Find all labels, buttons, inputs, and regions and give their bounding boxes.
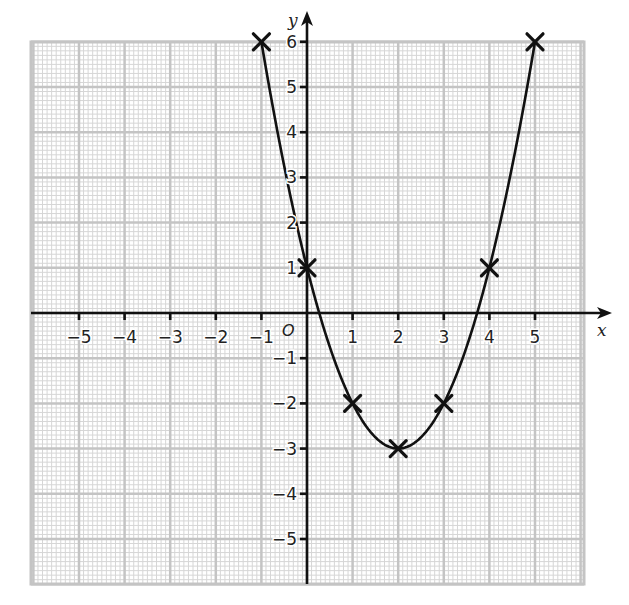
x-tick-label: 2 — [393, 327, 404, 347]
x-tick-label: −2 — [203, 327, 228, 347]
x-tick-label: −3 — [158, 327, 183, 347]
x-tick-label: −1 — [249, 327, 274, 347]
y-tick-label: 1 — [286, 258, 297, 278]
x-tick-label: 1 — [347, 327, 358, 347]
y-tick-label: 6 — [286, 32, 297, 52]
x-tick-label: 5 — [530, 327, 541, 347]
origin-label: O — [282, 321, 295, 340]
x-axis-label: x — [597, 320, 607, 340]
x-tick-label: −4 — [112, 327, 137, 347]
y-tick-label: 3 — [286, 167, 297, 187]
graph-plot: −5−4−3−2−112345654321−1−2−3−4−5 x y O — [0, 0, 629, 605]
x-tick-label: 3 — [438, 327, 449, 347]
y-axis-label: y — [287, 10, 298, 30]
y-tick-label: −5 — [272, 529, 297, 549]
y-tick-label: 4 — [286, 122, 297, 142]
y-tick-label: 5 — [286, 77, 297, 97]
x-tick-label: −5 — [66, 327, 91, 347]
y-tick-label: −4 — [272, 484, 297, 504]
y-tick-label: −1 — [272, 348, 297, 368]
y-tick-label: 2 — [286, 213, 297, 233]
x-tick-label: 4 — [484, 327, 495, 347]
y-tick-label: −2 — [272, 393, 297, 413]
y-tick-label: −3 — [272, 439, 297, 459]
